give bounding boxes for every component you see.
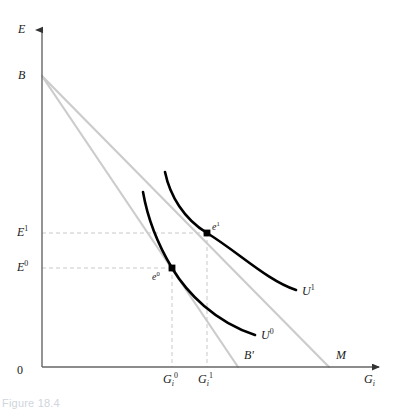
y-tick-e0: E0 [17,261,28,273]
y-tick-e1-sup: 1 [24,224,28,233]
budget-line-m [42,76,329,367]
marker-e1 [204,230,211,237]
origin-label: 0 [17,364,23,376]
equilibrium-label-e0-sup: 0 [156,270,159,277]
indifference-curve-u0 [143,192,255,335]
curve-label-u1: U1 [302,285,315,297]
x-tick-gi1-sup: 1 [209,371,213,380]
curve-label-u1-sup: 1 [311,283,315,292]
budget-line-b-prime [42,76,238,367]
x-tick-gi0-sup: 0 [174,371,178,380]
curve-label-u0-sup: 0 [270,327,274,336]
marker-e0 [169,265,176,272]
y-tick-e1: E1 [17,226,28,238]
curve-label-u0: U0 [261,329,274,341]
x-axis-label: Gi [364,373,375,385]
equilibrium-label-e0: e0 [152,272,160,282]
budget-intercept-b-prime-label: B' [244,349,254,361]
y-axis-label: E [18,23,25,35]
x-tick-gi1-sub: i [207,379,209,388]
x-tick-gi0-main: G [163,372,172,386]
economics-indifference-curve-figure: E B E1 E0 0 Gi0 Gi1 Gi e0 e1 U0 U1 B' M … [0,0,405,409]
budget-intercept-b-label: B [18,69,25,81]
guide-lines [42,233,207,367]
x-tick-gi0-sub: i [172,379,174,388]
axes [42,30,379,367]
x-tick-gi1-main: G [198,372,207,386]
y-tick-e0-sup: 0 [24,259,28,268]
budget-lines [42,76,329,367]
x-tick-gi1: Gi1 [198,373,213,385]
curve-label-u0-main: U [261,328,270,342]
figure-caption: Figure 18.4 [2,397,60,409]
curve-label-u1-main: U [302,284,311,298]
equilibrium-label-e1-sup: 1 [216,220,219,227]
equilibrium-markers [169,230,211,272]
x-axis-label-sub: i [373,379,375,388]
budget-intercept-m-label: M [336,349,346,361]
x-axis-label-main: G [364,372,373,386]
equilibrium-label-e1: e1 [212,222,220,232]
x-tick-gi0: Gi0 [163,373,178,385]
indifference-curve-u1 [165,172,296,290]
